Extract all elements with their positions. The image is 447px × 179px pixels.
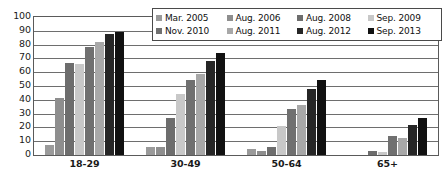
- bar-mar-2005-18-29: [45, 145, 54, 155]
- legend-item-aug-2012[interactable]: Aug. 2012: [297, 24, 368, 37]
- y-axis-tick-80: 80: [1, 39, 31, 48]
- y-axis-tick-40: 40: [1, 94, 31, 103]
- bar-aug-2006-50-64: [257, 151, 266, 155]
- bar-sep-2009-30-49: [176, 94, 185, 155]
- bar-aug-2008-30-49: [166, 118, 175, 155]
- legend-swatch-icon: [297, 28, 303, 34]
- legend-row-2: Nov. 2010Aug. 2011Aug. 2012Sep. 2013: [156, 24, 438, 37]
- legend-item-sep-2013[interactable]: Sep. 2013: [368, 24, 439, 37]
- bar-nov-2010-18-29: [85, 47, 94, 155]
- bar-aug-2012-18-29: [105, 34, 114, 155]
- legend-item-sep-2009[interactable]: Sep. 2009: [368, 11, 439, 24]
- legend-swatch-icon: [368, 15, 374, 21]
- bar-mar-2005-30-49: [146, 147, 155, 155]
- legend-item-aug-2008[interactable]: Aug. 2008: [297, 11, 368, 24]
- legend-label: Aug. 2006: [236, 13, 281, 23]
- bar-sep-2009-65+: [378, 152, 387, 155]
- x-axis-label-18-29: 18-29: [34, 158, 135, 174]
- bar-sep-2009-50-64: [277, 126, 286, 155]
- legend-swatch-icon: [227, 15, 233, 21]
- legend-label: Nov. 2010: [165, 26, 209, 36]
- bar-aug-2011-18-29: [95, 42, 104, 155]
- y-axis: 1009080706050403020100: [0, 16, 31, 156]
- legend-swatch-icon: [297, 15, 303, 21]
- legend-swatch-icon: [156, 15, 162, 21]
- legend-label: Sep. 2013: [377, 26, 421, 36]
- legend-label: Mar. 2005: [165, 13, 208, 23]
- legend-item-mar-2005[interactable]: Mar. 2005: [156, 11, 227, 24]
- bar-aug-2008-50-64: [267, 147, 276, 155]
- bar-nov-2010-30-49: [186, 80, 195, 155]
- legend-label: Aug. 2012: [306, 26, 351, 36]
- x-axis-label-65+: 65+: [337, 158, 438, 174]
- y-axis-tick-20: 20: [1, 121, 31, 130]
- bar-aug-2011-65+: [398, 138, 407, 155]
- y-axis-tick-70: 70: [1, 52, 31, 61]
- legend-label: Aug. 2011: [236, 26, 281, 36]
- legend-swatch-icon: [368, 28, 374, 34]
- bar-chart: 1009080706050403020100 18-2930-4950-6465…: [0, 0, 447, 179]
- bar-sep-2013-30-49: [216, 53, 225, 155]
- x-axis-labels: 18-2930-4950-6465+: [34, 158, 438, 174]
- y-axis-tick-60: 60: [1, 66, 31, 75]
- bar-nov-2010-50-64: [287, 109, 296, 155]
- bar-aug-2006-30-49: [156, 147, 165, 155]
- y-axis-tick-10: 10: [1, 135, 31, 144]
- bar-aug-2012-50-64: [307, 89, 316, 155]
- bar-nov-2010-65+: [388, 136, 397, 155]
- legend-swatch-icon: [156, 28, 162, 34]
- bar-group-18-29: [34, 17, 135, 155]
- legend-row-1: Mar. 2005Aug. 2006Aug. 2008Sep. 2009: [156, 11, 438, 24]
- bar-sep-2013-65+: [418, 118, 427, 155]
- y-axis-tick-100: 100: [1, 11, 31, 20]
- y-axis-tick-90: 90: [1, 25, 31, 34]
- legend-label: Sep. 2009: [377, 13, 421, 23]
- bar-aug-2006-18-29: [55, 98, 64, 155]
- y-axis-tick-50: 50: [1, 80, 31, 89]
- bar-aug-2012-30-49: [206, 61, 215, 155]
- bar-sep-2013-50-64: [317, 80, 326, 155]
- bar-sep-2009-18-29: [75, 64, 84, 155]
- bar-aug-2012-65+: [408, 125, 417, 155]
- x-axis-label-50-64: 50-64: [236, 158, 337, 174]
- bar-mar-2005-50-64: [247, 149, 256, 155]
- legend-label: Aug. 2008: [306, 13, 351, 23]
- bar-aug-2011-30-49: [196, 74, 205, 155]
- bar-sep-2013-18-29: [115, 32, 124, 155]
- chart-legend: Mar. 2005Aug. 2006Aug. 2008Sep. 2009Nov.…: [152, 8, 442, 41]
- x-axis-label-30-49: 30-49: [135, 158, 236, 174]
- y-axis-tick-30: 30: [1, 108, 31, 117]
- legend-item-aug-2011[interactable]: Aug. 2011: [227, 24, 298, 37]
- bar-aug-2008-65+: [368, 151, 377, 155]
- legend-item-aug-2006[interactable]: Aug. 2006: [227, 11, 298, 24]
- legend-item-nov-2010[interactable]: Nov. 2010: [156, 24, 227, 37]
- bar-aug-2011-50-64: [297, 105, 306, 155]
- y-axis-tick-0: 0: [1, 149, 31, 158]
- bar-aug-2008-18-29: [65, 63, 74, 155]
- legend-swatch-icon: [227, 28, 233, 34]
